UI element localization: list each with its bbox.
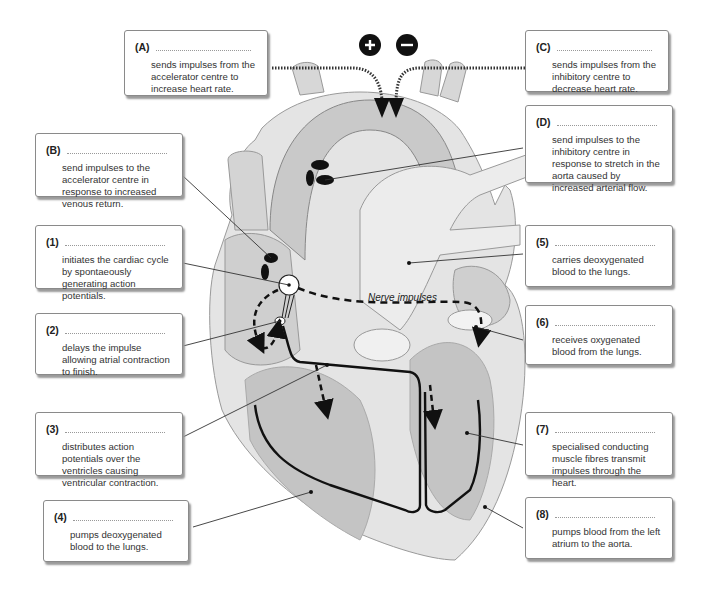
label-box-6: (6) receives oxygenated blood from the l… (525, 305, 673, 365)
answer-line[interactable] (73, 512, 173, 521)
answer-line[interactable] (557, 42, 652, 51)
label-description: pumps blood from the left atrium to the … (552, 526, 664, 550)
label-tag: (6) (536, 316, 549, 328)
label-box-3: (3) distributes action potentials over t… (35, 412, 183, 476)
label-tag: (B) (46, 144, 61, 156)
label-box-b: (B) send impulses to the accelerator cen… (35, 133, 183, 197)
label-box-8: (8) pumps blood from the left atrium to … (525, 497, 673, 559)
answer-line[interactable] (555, 424, 655, 433)
label-description: distributes action potentials over the v… (62, 441, 174, 489)
label-tag: (1) (46, 236, 59, 248)
label-tag: (7) (536, 423, 549, 435)
answer-line[interactable] (555, 237, 655, 246)
label-tag: (4) (54, 511, 67, 523)
label-box-d: (D) send impulses to the inhibitory cent… (525, 105, 673, 183)
answer-line[interactable] (65, 237, 165, 246)
label-tag: (A) (135, 41, 150, 53)
label-description: initiates the cardiac cycle by spontaeou… (62, 254, 174, 302)
label-description: pumps deoxygenated blood to the lungs. (70, 529, 180, 553)
label-box-5: (5) carries deoxygenated blood to the lu… (525, 225, 673, 287)
label-box-c: (C) sends impulses from the inhibitory c… (525, 30, 669, 92)
label-description: carries deoxygenated blood to the lungs. (552, 254, 664, 278)
label-box-2: (2) delays the impulse allowing atrial c… (35, 313, 183, 375)
label-description: send impulses to the accelerator centre … (62, 162, 174, 210)
nerve-impulses-label: Nerve impulses (368, 292, 437, 303)
label-tag: (D) (536, 116, 551, 128)
answer-line[interactable] (156, 42, 251, 51)
heart-illustration (210, 60, 545, 560)
label-tag: (2) (46, 324, 59, 336)
answer-line[interactable] (555, 317, 655, 326)
label-box-a: (A) sends impulses from the accelerator … (124, 30, 268, 96)
label-description: sends impulses from the accelerator cent… (151, 59, 259, 95)
label-description: specialised conducting muscle fibres tra… (552, 441, 664, 489)
answer-line[interactable] (65, 325, 165, 334)
label-description: sends impulses from the inhibitory centr… (552, 59, 660, 95)
label-tag: (5) (536, 236, 549, 248)
answer-line[interactable] (65, 424, 165, 433)
label-box-1: (1) initiates the cardiac cycle by spont… (35, 225, 183, 289)
answer-line[interactable] (555, 509, 655, 518)
answer-line[interactable] (557, 117, 657, 126)
label-description: receives oxygenated blood from the lungs… (552, 334, 664, 358)
label-description: delays the impulse allowing atrial contr… (62, 342, 174, 378)
label-description: send impulses to the inhibitory centre i… (552, 134, 664, 194)
label-tag: (C) (536, 41, 551, 53)
label-tag: (8) (536, 508, 549, 520)
answer-line[interactable] (67, 145, 167, 154)
label-box-7: (7) specialised conducting muscle fibres… (525, 412, 673, 476)
label-box-4: (4) pumps deoxygenated blood to the lung… (43, 500, 189, 562)
label-tag: (3) (46, 423, 59, 435)
